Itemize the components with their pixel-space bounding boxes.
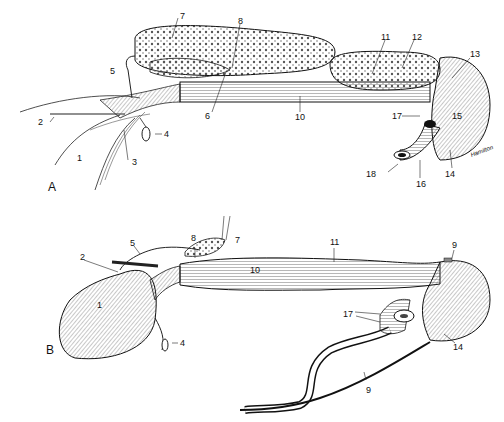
label-b-4: 4 (180, 339, 185, 348)
label-a-13: 13 (470, 50, 480, 59)
anatomical-illustration (0, 0, 504, 422)
label-a-14: 14 (445, 170, 455, 179)
label-a-16: 16 (416, 180, 426, 189)
label-b-8: 8 (191, 234, 196, 243)
label-a-12: 12 (412, 33, 422, 42)
label-a-11: 11 (381, 33, 390, 42)
label-b-7: 7 (235, 236, 240, 245)
label-b-10: 10 (250, 266, 260, 275)
label-a-17: 17 (392, 112, 402, 121)
label-b-2: 2 (80, 253, 85, 262)
label-b-14: 14 (453, 343, 463, 352)
label-a-8: 8 (238, 17, 243, 26)
label-b-1: 1 (97, 301, 102, 310)
label-a-2: 2 (38, 118, 43, 127)
label-a-5: 5 (110, 67, 115, 76)
label-a-18: 18 (366, 170, 376, 179)
panel-label-b: B (46, 343, 54, 357)
panel-b-drawing (59, 216, 490, 410)
label-b-9-top: 9 (452, 241, 457, 250)
label-b-5: 5 (130, 239, 135, 248)
label-b-17: 17 (343, 310, 353, 319)
label-a-7: 7 (180, 12, 185, 21)
label-a-3: 3 (132, 158, 137, 167)
label-a-1: 1 (77, 154, 82, 163)
label-a-10: 10 (295, 113, 305, 122)
label-a-15: 15 (452, 112, 462, 121)
label-b-9-bottom: 9 (366, 386, 371, 395)
label-a-6: 6 (205, 112, 210, 121)
label-b-11: 11 (330, 238, 339, 247)
panel-label-a: A (48, 180, 56, 194)
panel-a-drawing (20, 18, 490, 190)
label-a-4: 4 (164, 130, 169, 139)
